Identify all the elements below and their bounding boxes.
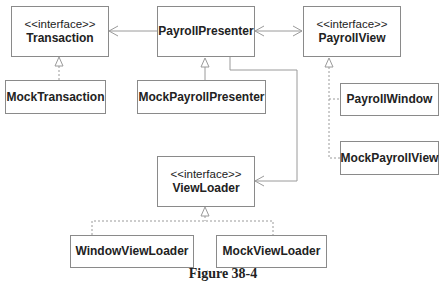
class-mock-payroll-view[interactable]: MockPayrollView — [340, 141, 439, 175]
class-payroll-window[interactable]: PayrollWindow — [340, 83, 439, 116]
class-name: PayrollWindow — [347, 92, 433, 107]
class-name: PayrollPresenter — [158, 24, 253, 39]
class-payroll-view[interactable]: <<interface>> PayrollView — [303, 6, 401, 57]
class-payroll-presenter[interactable]: PayrollPresenter — [157, 6, 255, 57]
class-mock-transaction[interactable]: MockTransaction — [5, 80, 106, 114]
class-mock-view-loader[interactable]: MockViewLoader — [216, 235, 327, 268]
class-name: Transaction — [26, 31, 93, 46]
stereotype-label: <<interface>> — [171, 167, 242, 181]
class-window-view-loader[interactable]: WindowViewLoader — [70, 235, 194, 268]
class-name: MockPayrollView — [341, 151, 439, 166]
class-view-loader[interactable]: <<interface>> ViewLoader — [157, 156, 255, 207]
class-name: WindowViewLoader — [75, 244, 188, 259]
figure-caption: Figure 38-4 — [0, 266, 446, 281]
class-name: MockViewLoader — [223, 244, 321, 259]
stereotype-label: <<interface>> — [25, 17, 96, 31]
class-name: MockPayrollPresenter — [138, 90, 264, 105]
class-name: ViewLoader — [172, 181, 239, 196]
class-name: PayrollView — [318, 31, 385, 46]
class-mock-payroll-presenter[interactable]: MockPayrollPresenter — [137, 80, 266, 114]
stereotype-label: <<interface>> — [317, 17, 388, 31]
class-name: MockTransaction — [6, 90, 104, 105]
class-transaction[interactable]: <<interface>> Transaction — [11, 6, 109, 57]
